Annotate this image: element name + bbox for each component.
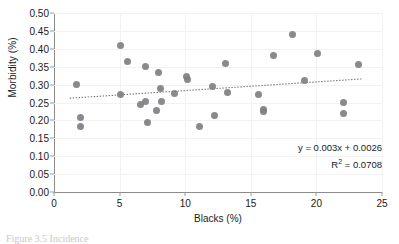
- y-tick-mark: [50, 13, 54, 14]
- y-tick-label: 0.40: [15, 43, 54, 54]
- data-point: [340, 99, 347, 106]
- gridline-horizontal: [54, 85, 382, 86]
- gridline-vertical: [382, 13, 383, 192]
- figure-caption: Figure 3.5 Incidence: [6, 233, 88, 244]
- data-point: [260, 108, 267, 115]
- y-tick-mark: [50, 102, 54, 103]
- r-squared-exponent: 2: [338, 158, 342, 165]
- gridline-horizontal: [54, 120, 382, 121]
- gridline-horizontal: [54, 49, 382, 50]
- data-point: [314, 50, 321, 57]
- data-point: [301, 77, 308, 84]
- trendline-equation-annotation: y = 0.003x + 0.0026: [298, 141, 382, 154]
- gridline-vertical: [316, 13, 317, 192]
- gridline-horizontal: [54, 13, 382, 14]
- data-point: [211, 112, 218, 119]
- data-point: [142, 63, 149, 70]
- x-tick-mark: [382, 192, 383, 196]
- y-tick-mark: [50, 120, 54, 121]
- y-tick-label: 0.00: [15, 187, 54, 198]
- r-squared-value: = 0.0708: [345, 159, 382, 170]
- y-tick-mark: [50, 66, 54, 67]
- data-point: [117, 91, 124, 98]
- data-point: [144, 119, 151, 126]
- x-tick-mark: [54, 192, 55, 196]
- data-point: [289, 31, 296, 38]
- y-tick-label: 0.25: [15, 97, 54, 108]
- y-tick-mark: [50, 84, 54, 85]
- x-tick-mark: [119, 192, 120, 196]
- data-point: [73, 81, 80, 88]
- y-tick-label: 0.05: [15, 169, 54, 180]
- y-tick-mark: [50, 174, 54, 175]
- y-tick-mark: [50, 48, 54, 49]
- data-point: [117, 42, 124, 49]
- data-point: [157, 85, 164, 92]
- data-point: [270, 52, 277, 59]
- r-squared-annotation: R2 = 0.0708: [331, 155, 382, 171]
- gridline-horizontal: [54, 67, 382, 68]
- data-point: [224, 89, 231, 96]
- y-tick-label: 0.45: [15, 25, 54, 36]
- y-tick-label: 0.15: [15, 133, 54, 144]
- data-point: [355, 61, 362, 68]
- data-point: [209, 83, 216, 90]
- data-point: [77, 123, 84, 130]
- y-tick-mark: [50, 156, 54, 157]
- data-point: [255, 91, 262, 98]
- data-point: [124, 58, 131, 65]
- gridline-horizontal: [54, 31, 382, 32]
- x-axis-line: [54, 192, 382, 193]
- data-point: [153, 107, 160, 114]
- gridline-horizontal: [54, 174, 382, 175]
- data-point: [155, 69, 162, 76]
- gridline-vertical: [120, 13, 121, 192]
- y-tick-label: 0.50: [15, 8, 54, 19]
- data-point: [171, 90, 178, 97]
- trendline-path: [70, 79, 363, 98]
- data-point: [222, 60, 229, 67]
- x-tick-mark: [316, 192, 317, 196]
- gridline-horizontal: [54, 138, 382, 139]
- gridline-vertical: [251, 13, 252, 192]
- gridline-horizontal: [54, 103, 382, 104]
- x-tick-mark: [250, 192, 251, 196]
- y-tick-label: 0.30: [15, 79, 54, 90]
- gridline-vertical: [185, 13, 186, 192]
- y-tick-label: 0.10: [15, 151, 54, 162]
- y-tick-label: 0.35: [15, 61, 54, 72]
- y-tick-mark: [50, 138, 54, 139]
- y-tick-label: 0.20: [15, 115, 54, 126]
- data-point: [340, 110, 347, 117]
- y-tick-mark: [50, 30, 54, 31]
- data-point: [142, 98, 149, 105]
- x-tick-mark: [185, 192, 186, 196]
- data-point: [196, 123, 203, 130]
- data-point: [184, 76, 191, 83]
- x-axis-label: Blacks (%): [54, 213, 382, 224]
- data-point: [158, 98, 165, 105]
